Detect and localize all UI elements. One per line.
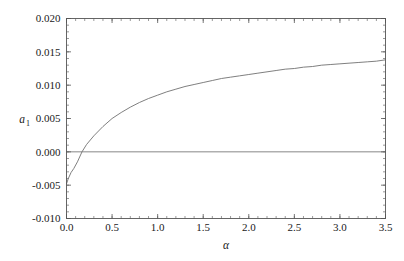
y-tick-label: -0.005 (32, 179, 61, 191)
y-tick-label: 0.000 (36, 146, 61, 158)
y-tick-label: -0.010 (32, 212, 61, 224)
x-tick-label: 3.0 (333, 221, 347, 233)
x-axis-title: α (223, 239, 230, 251)
y-axis-title-subscript: 1 (26, 119, 30, 128)
x-tick-label: 0.0 (60, 221, 74, 233)
y-axis-title-text: a (19, 113, 25, 125)
chart-figure: 0.00.51.01.52.02.53.03.5 -0.010-0.0050.0… (0, 0, 404, 261)
x-tick-label: 1.0 (151, 221, 165, 233)
x-tick-label: 0.5 (105, 221, 119, 233)
plot-area: 0.00.51.01.52.02.53.03.5 -0.010-0.0050.0… (0, 0, 404, 261)
y-tick-label: 0.015 (36, 46, 61, 58)
y-tick-label: 0.010 (36, 79, 61, 91)
x-tick-label: 3.5 (379, 221, 393, 233)
x-tick-label: 2.5 (287, 221, 301, 233)
x-tick-label: 1.5 (196, 221, 210, 233)
x-tick-label: 2.0 (242, 221, 256, 233)
y-tick-label: 0.020 (36, 12, 61, 24)
y-tick-label: 0.005 (36, 112, 61, 124)
